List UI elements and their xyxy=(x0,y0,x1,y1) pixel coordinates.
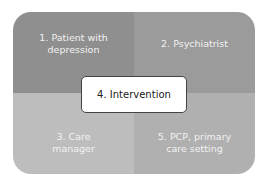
center-label: 4. Intervention xyxy=(97,89,171,100)
quadrant-label: 5. PCP, primary care setting xyxy=(157,131,232,155)
center-intervention-box: 4. Intervention xyxy=(81,76,187,113)
quadrant-label: 1. Patient with depression xyxy=(34,32,114,56)
quadrant-label: 3. Care manager xyxy=(49,131,99,155)
quadrant-label: 2. Psychiatrist xyxy=(161,38,228,50)
